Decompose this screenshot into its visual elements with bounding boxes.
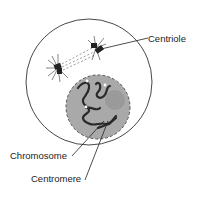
centriole-right	[88, 36, 106, 60]
label-centromere: Centromere	[31, 174, 81, 184]
nucleus	[66, 75, 130, 139]
label-chromosome: Chromosome	[10, 151, 67, 161]
label-centriole: Centriole	[148, 34, 186, 44]
